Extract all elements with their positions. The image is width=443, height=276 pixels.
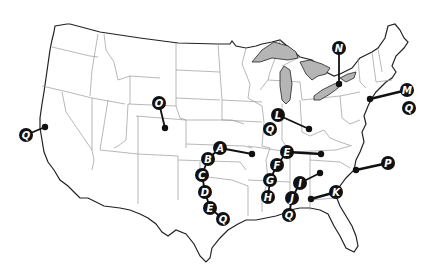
svg-text:N: N bbox=[335, 43, 344, 54]
marker-f[interactable]: F bbox=[270, 158, 284, 172]
svg-text:Q: Q bbox=[219, 214, 228, 225]
marker-e-east[interactable]: E bbox=[280, 145, 294, 159]
svg-text:Q: Q bbox=[285, 210, 294, 221]
svg-text:G: G bbox=[266, 175, 274, 186]
location-dot-o bbox=[162, 125, 168, 131]
location-dot-m bbox=[367, 96, 373, 102]
marker-p[interactable]: P bbox=[381, 156, 395, 170]
svg-text:K: K bbox=[332, 187, 341, 198]
marker-g[interactable]: G bbox=[263, 173, 277, 187]
location-dot-n bbox=[336, 81, 342, 87]
marker-c[interactable]: C bbox=[195, 168, 209, 182]
location-dot-i bbox=[317, 170, 323, 176]
svg-text:B: B bbox=[204, 154, 212, 165]
marker-k[interactable]: K bbox=[329, 185, 343, 199]
svg-text:A: A bbox=[215, 143, 224, 154]
location-dot-p bbox=[353, 167, 359, 173]
us-map: O Q A B C D E Q L Q E F G H I J Q K P M … bbox=[0, 0, 443, 276]
location-dot-k bbox=[308, 196, 314, 202]
marker-q-texas[interactable]: Q bbox=[216, 212, 230, 226]
svg-text:F: F bbox=[274, 160, 281, 171]
marker-j[interactable]: J bbox=[285, 191, 299, 205]
marker-o[interactable]: O bbox=[152, 96, 166, 110]
svg-text:H: H bbox=[264, 192, 273, 203]
marker-q-west[interactable]: Q bbox=[19, 128, 33, 142]
marker-l[interactable]: L bbox=[271, 108, 285, 122]
svg-text:E: E bbox=[284, 147, 291, 158]
svg-text:E: E bbox=[207, 203, 214, 214]
svg-text:Q: Q bbox=[266, 124, 275, 135]
marker-e-west[interactable]: E bbox=[203, 201, 217, 215]
location-dot-a bbox=[249, 151, 255, 157]
svg-text:C: C bbox=[198, 170, 206, 181]
marker-h[interactable]: H bbox=[261, 190, 275, 204]
marker-q-east[interactable]: Q bbox=[402, 101, 416, 115]
marker-n[interactable]: N bbox=[332, 41, 346, 55]
svg-text:O: O bbox=[155, 98, 164, 109]
svg-text:D: D bbox=[201, 187, 209, 198]
marker-b[interactable]: B bbox=[201, 152, 215, 166]
location-dot-q-west bbox=[42, 124, 48, 130]
marker-a[interactable]: A bbox=[213, 141, 227, 155]
marker-q-l[interactable]: Q bbox=[263, 122, 277, 136]
svg-text:Q: Q bbox=[405, 103, 414, 114]
marker-i[interactable]: I bbox=[293, 176, 307, 190]
location-dot-e bbox=[318, 151, 324, 157]
marker-q-gulf[interactable]: Q bbox=[282, 208, 296, 222]
marker-m[interactable]: M bbox=[400, 83, 414, 97]
location-dot-l bbox=[306, 126, 312, 132]
marker-d[interactable]: D bbox=[198, 185, 212, 199]
svg-text:P: P bbox=[384, 158, 392, 169]
svg-text:L: L bbox=[275, 110, 281, 121]
svg-text:I: I bbox=[298, 178, 302, 189]
svg-text:Q: Q bbox=[22, 130, 31, 141]
svg-text:M: M bbox=[402, 85, 412, 96]
